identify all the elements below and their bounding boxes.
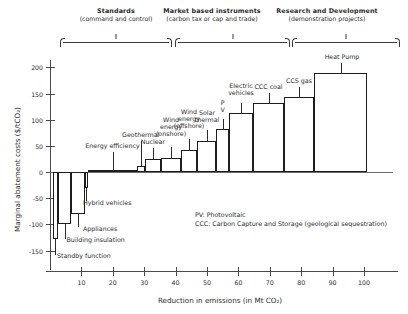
leader-wind-energy-offshore <box>189 139 190 150</box>
leader-solar-thermal <box>207 130 208 141</box>
x-tick-10 <box>81 267 82 276</box>
bar-wind-energy-onshore[interactable] <box>161 158 181 172</box>
y-tick-50 <box>46 146 55 147</box>
bar-label-hybrid-vehicles: Hybrid vehicles <box>83 200 132 207</box>
bar-pv[interactable] <box>216 129 229 172</box>
bar-label-ccs-gas: CCS gas <box>286 78 312 85</box>
x-tick-label-80: 80 <box>297 279 305 286</box>
bar-energy-efficiency[interactable] <box>88 170 136 172</box>
macc-chart: Standards (command and control) Market b… <box>0 0 408 314</box>
leader-ccc-coal <box>269 93 270 104</box>
bar-appliances[interactable] <box>71 172 84 214</box>
bar-wind-energy-offshore[interactable] <box>181 150 197 172</box>
bar-building-insulation[interactable] <box>58 172 71 224</box>
x-tick-30 <box>144 267 145 276</box>
bar-ccs-gas[interactable] <box>284 97 314 172</box>
bar-ccc-coal[interactable] <box>253 103 284 172</box>
brace-market-based-instruments <box>175 38 290 48</box>
bar-geothermal[interactable] <box>137 166 145 172</box>
x-tick-label-10: 10 <box>77 279 85 286</box>
y-tick-label-neg100: -100 <box>29 221 43 228</box>
bar-label-standby-function: Standby function <box>57 253 111 260</box>
x-tick-70 <box>270 267 271 276</box>
x-tick-40 <box>176 267 177 276</box>
x-tick-80 <box>301 267 302 276</box>
bar-solar-thermal[interactable] <box>197 141 217 172</box>
y-tick-label-neg150: -150 <box>29 247 43 254</box>
y-axis-line <box>50 60 51 270</box>
bar-nuclear[interactable] <box>145 159 161 172</box>
x-tick-20 <box>113 267 114 276</box>
y-tick-150 <box>46 94 55 95</box>
leader-nuclear <box>153 148 154 159</box>
bar-label-nuclear: Nuclear <box>141 139 165 146</box>
leader-pv <box>223 119 224 130</box>
x-tick-label-30: 30 <box>140 279 148 286</box>
brace-research-and-development <box>292 38 400 48</box>
bar-label-electric-vehicles: Electric vehicles <box>228 83 254 97</box>
y-tick-label-150: 150 <box>31 90 43 97</box>
x-axis-title: Reduction in emissions (in Mt CO₂) <box>158 296 282 305</box>
category-group-research-and-development-subtitle: (demonstration projects) <box>242 15 408 22</box>
bar-heat-pump[interactable] <box>314 73 367 173</box>
bar-label-building-insulation: Building insulation <box>67 237 125 244</box>
bar-label-heat-pump: Heat Pump <box>325 54 360 61</box>
bar-label-solar-thermal: Solar thermal <box>195 110 220 124</box>
y-tick-label-200: 200 <box>31 64 43 71</box>
y-tick-label-0: 0 <box>39 169 43 176</box>
brace-standards <box>60 38 172 48</box>
bar-label-energy-efficiency: Energy efficiency <box>85 143 139 150</box>
bar-electric-vehicles[interactable] <box>229 113 253 172</box>
y-tick-label-neg50: -50 <box>33 195 43 202</box>
zero-line <box>50 172 393 173</box>
leader-building-insulation <box>65 224 66 239</box>
y-tick-200 <box>46 67 55 68</box>
bar-hybrid-vehicles[interactable] <box>85 172 89 188</box>
x-tick-100 <box>364 267 365 276</box>
x-tick-label-70: 70 <box>266 279 274 286</box>
abbreviations-note: PV: Photovoltaic CCC: Carbon Capture and… <box>195 211 387 228</box>
y-axis-title: Marginal abatement costs ($/tCO₂) <box>13 107 22 232</box>
x-tick-label-20: 20 <box>109 279 117 286</box>
y-tick-label-50: 50 <box>35 142 43 149</box>
x-tick-label-50: 50 <box>203 279 211 286</box>
x-tick-label-60: 60 <box>234 279 242 286</box>
y-tick-neg150 <box>46 251 55 252</box>
x-axis-line <box>46 271 398 272</box>
leader-electric-vehicles <box>241 103 242 114</box>
x-tick-60 <box>238 267 239 276</box>
x-tick-label-40: 40 <box>172 279 180 286</box>
y-tick-100 <box>46 120 55 121</box>
leader-ccs-gas <box>299 87 300 98</box>
y-tick-label-100: 100 <box>31 116 43 123</box>
x-tick-label-90: 90 <box>329 279 337 286</box>
x-tick-50 <box>207 267 208 276</box>
bar-label-ccc-coal: CCC coal <box>254 84 282 91</box>
leader-wind-energy-onshore <box>171 147 172 158</box>
leader-energy-efficiency <box>113 152 114 170</box>
x-tick-label-100: 100 <box>358 279 370 286</box>
category-group-research-and-development: Research and Development (demonstration … <box>242 7 408 22</box>
bar-label-pv: P V <box>221 100 225 114</box>
category-group-research-and-development-title: Research and Development <box>242 7 408 15</box>
x-tick-90 <box>333 267 334 276</box>
bar-label-appliances: Appliances <box>83 226 117 233</box>
leader-appliances <box>78 214 79 227</box>
leader-heat-pump <box>341 63 342 74</box>
